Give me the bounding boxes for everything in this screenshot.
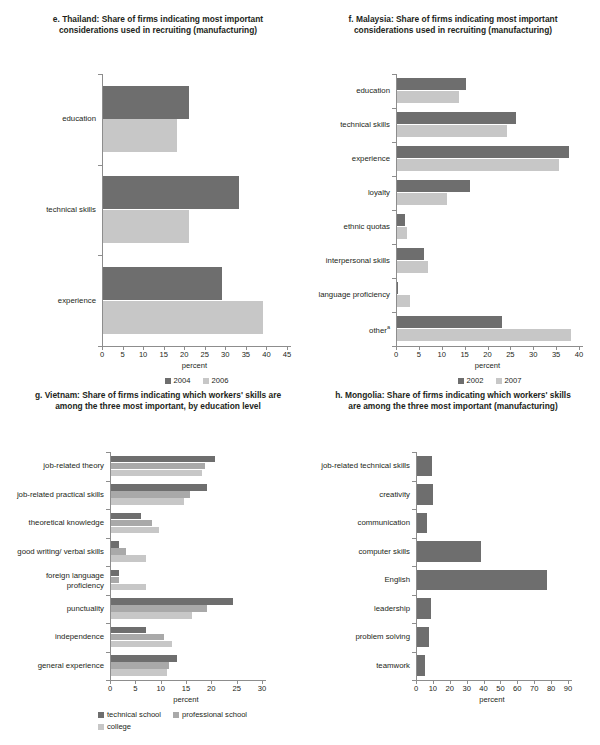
bar	[111, 555, 146, 562]
bar	[397, 125, 507, 137]
x-axis-tick-label: 80	[547, 684, 555, 693]
y-axis-tick	[106, 538, 110, 539]
plot-area-thailand: educationtechnical skillsexperience05101…	[12, 36, 304, 346]
panel-vietnam: g. Vietnam: Share of firms indicating wh…	[12, 390, 304, 740]
category-label: communication	[312, 519, 410, 528]
x-axis-title: percent	[416, 695, 568, 704]
x-axis-line	[396, 346, 583, 347]
x-axis-tick-label: 50	[496, 684, 504, 693]
x-axis-tick-label: 15	[182, 684, 190, 693]
category-label: education	[14, 115, 96, 124]
legend-label: 2002	[467, 376, 484, 385]
bar	[111, 641, 172, 648]
category-label: othera	[312, 323, 390, 335]
bar	[397, 227, 407, 239]
category-label: creativity	[312, 490, 410, 499]
bar	[397, 193, 447, 205]
bar	[103, 86, 189, 119]
x-axis-tick-label: 10	[429, 684, 437, 693]
bar	[397, 159, 559, 171]
legend-item[interactable]: 2002	[458, 376, 484, 385]
x-axis-tick-label: 0	[394, 350, 398, 359]
x-axis-tick-label: 0	[414, 684, 418, 693]
category-label: job-related theory	[14, 462, 104, 471]
category-label: experience	[312, 154, 390, 163]
bar	[397, 261, 428, 273]
bar	[417, 655, 425, 676]
y-axis-tick	[392, 108, 396, 109]
x-axis-line	[416, 680, 572, 681]
plot-area-vietnam: job-related theoryjob-related practical …	[12, 412, 304, 702]
category-label: foreign language proficiency	[14, 571, 104, 590]
chart-title-malaysia: f. Malaysia: Share of firms indicating m…	[324, 14, 582, 36]
y-axis-tick	[106, 452, 110, 453]
bar	[111, 541, 119, 548]
x-axis-tick-label: 20	[446, 684, 454, 693]
legend-item[interactable]: professional school	[173, 710, 247, 719]
x-axis-tick-label: 10	[438, 350, 446, 359]
y-axis-tick	[412, 652, 416, 653]
figure-page: e. Thailand: Share of firms indicating m…	[0, 0, 600, 745]
chart-legend: technical schoolprofessional schoolcolle…	[98, 710, 290, 734]
y-axis-tick	[412, 566, 416, 567]
category-label: job-related practical skills	[14, 490, 104, 499]
category-label: independence	[14, 633, 104, 642]
y-axis-tick	[98, 255, 102, 256]
bar	[103, 210, 189, 243]
bar	[417, 570, 547, 591]
chart-legend: 20042006	[90, 376, 315, 388]
x-axis-title: percent	[396, 361, 579, 370]
x-axis-tick-label: 20	[483, 350, 491, 359]
category-label: job-related technical skills	[312, 462, 410, 471]
bar	[111, 513, 141, 520]
chart-title-thailand: e. Thailand: Share of firms indicating m…	[33, 14, 283, 36]
legend-label: 2004	[174, 376, 191, 385]
category-label: English	[312, 576, 410, 585]
bar	[111, 470, 202, 477]
x-axis-title: percent	[102, 361, 287, 370]
footnote-marker: a	[387, 324, 390, 330]
chart-title-vietnam: g. Vietnam: Share of firms indicating wh…	[33, 390, 283, 412]
bar	[417, 456, 432, 477]
bar	[111, 669, 167, 676]
bar	[111, 548, 126, 555]
legend-item[interactable]: college	[98, 722, 131, 731]
category-label: experience	[14, 296, 96, 305]
y-axis-tick	[106, 623, 110, 624]
y-axis-tick	[412, 538, 416, 539]
y-axis-tick	[392, 74, 396, 75]
y-axis-tick	[392, 210, 396, 211]
x-axis-tick-label: 30	[462, 684, 470, 693]
x-axis-tick-label: 5	[417, 350, 421, 359]
category-label: computer skills	[312, 547, 410, 556]
x-axis-tick-label: 60	[513, 684, 521, 693]
legend-label: technical school	[107, 710, 161, 719]
y-axis-tick	[106, 652, 110, 653]
category-label: education	[312, 86, 390, 95]
bar	[111, 662, 169, 669]
y-axis-tick	[392, 244, 396, 245]
bar	[103, 119, 177, 152]
x-axis-line	[102, 346, 291, 347]
legend-label: 2007	[505, 376, 522, 385]
x-axis-tick-label: 0	[108, 684, 112, 693]
y-axis-tick	[412, 481, 416, 482]
legend-swatch	[98, 724, 104, 730]
x-axis-tick-label: 25	[201, 350, 209, 359]
category-label: good writing/ verbal skills	[14, 547, 104, 556]
bar	[417, 541, 481, 562]
legend-item[interactable]: 2006	[203, 376, 229, 385]
bar	[111, 463, 205, 470]
legend-item[interactable]: 2004	[165, 376, 191, 385]
x-axis-tick-label: 15	[159, 350, 167, 359]
x-axis-line	[110, 680, 266, 681]
legend-item[interactable]: 2007	[496, 376, 522, 385]
category-label: technical skills	[312, 120, 390, 129]
bar	[397, 112, 516, 124]
bar	[417, 513, 427, 534]
y-axis-tick	[412, 623, 416, 624]
x-axis-tick-label: 30	[529, 350, 537, 359]
legend-item[interactable]: technical school	[98, 710, 161, 719]
panel-malaysia: f. Malaysia: Share of firms indicating m…	[310, 14, 596, 384]
bar	[111, 584, 146, 591]
